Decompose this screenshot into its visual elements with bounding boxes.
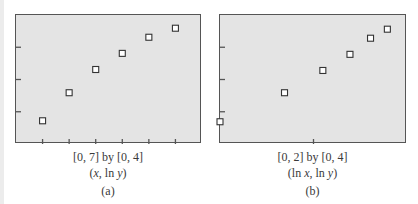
axes-label-b: (ln x, ln y) xyxy=(219,165,406,181)
data-point-marker xyxy=(368,35,374,41)
data-point-marker xyxy=(119,50,125,56)
panel-label-a: (a) xyxy=(15,183,201,199)
plot-area-a xyxy=(15,14,201,143)
data-point-marker xyxy=(146,34,152,40)
data-point-marker xyxy=(347,51,353,57)
plot-area-b xyxy=(219,14,406,143)
data-point-marker xyxy=(384,26,390,32)
panel-label-b: (b) xyxy=(219,183,406,199)
data-point-marker xyxy=(282,90,288,96)
data-point-marker xyxy=(93,67,99,73)
data-point-marker xyxy=(40,118,46,124)
caption-b: [0, 2] by [0, 4] (ln x, ln y) (b) xyxy=(219,149,406,199)
scatter-plot-b xyxy=(220,15,407,144)
data-point-marker xyxy=(172,25,178,31)
axes-label-a: (x, ln y) xyxy=(15,165,201,181)
panel-a: [0, 7] by [0, 4] (x, ln y) (a) xyxy=(0,0,210,204)
window-label-b: [0, 2] by [0, 4] xyxy=(219,149,406,165)
data-point-marker xyxy=(320,67,326,73)
data-point-marker xyxy=(217,119,223,125)
window-label-a: [0, 7] by [0, 4] xyxy=(15,149,201,165)
caption-a: [0, 7] by [0, 4] (x, ln y) (a) xyxy=(15,149,201,199)
scatter-plot-a xyxy=(16,15,202,144)
data-point-marker xyxy=(66,90,72,96)
panel-b: [0, 2] by [0, 4] (ln x, ln y) (b) xyxy=(208,0,418,204)
